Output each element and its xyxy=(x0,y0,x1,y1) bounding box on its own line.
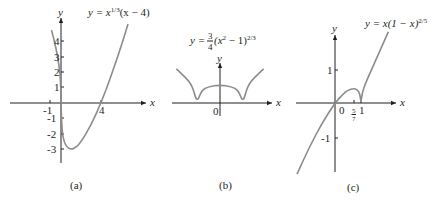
equation-a: y = x1/3(x − 4) xyxy=(87,6,150,19)
panel-b: 0 y x y = 3 4 (x2 − 1)2/3 (b) xyxy=(172,31,281,192)
ytick-label: -2 xyxy=(47,128,56,140)
equation-c: y = x(1 − x)2/5 xyxy=(364,17,428,30)
panel-c: 1 -1 0 5 7 1 y x y = x(1 − x)2/5 (c) xyxy=(296,17,428,194)
ytick-label: 2 xyxy=(54,66,60,78)
ytick-label: 1 xyxy=(327,64,333,76)
xtick-label: 0 xyxy=(213,105,219,117)
x-axis-label: x xyxy=(399,96,405,108)
svg-text:7: 7 xyxy=(352,115,356,123)
caption-a: (a) xyxy=(70,179,83,192)
caption-c: (c) xyxy=(347,181,360,194)
svg-text:(x2 − 1)2/3: (x2 − 1)2/3 xyxy=(214,34,256,47)
figure: 4 3 2 1 -1 -2 -3 -1 4 y x y = x1/3(x − 4… xyxy=(0,0,436,203)
x-axis-label: x xyxy=(149,96,155,108)
ytick-label: 1 xyxy=(54,81,60,93)
xtick-label: 1 xyxy=(359,104,365,116)
ytick-label: -3 xyxy=(47,143,57,155)
y-axis-label: y xyxy=(57,6,63,18)
xtick-label: -1 xyxy=(43,104,52,116)
svg-text:5: 5 xyxy=(352,107,356,115)
x-axis-label: x xyxy=(275,96,281,108)
ytick-label: 3 xyxy=(54,51,60,63)
xtick-label: 0 xyxy=(339,104,345,116)
caption-b: (b) xyxy=(219,179,232,192)
y-axis-label: y xyxy=(331,22,337,34)
svg-text:4: 4 xyxy=(208,42,213,52)
ytick-label: 4 xyxy=(54,35,60,47)
panel-a: 4 3 2 1 -1 -2 -3 -1 4 y x y = x1/3(x − 4… xyxy=(10,6,155,192)
xtick-label: 4 xyxy=(99,104,105,116)
y-axis-label: y xyxy=(216,52,222,64)
ytick-label: -1 xyxy=(321,132,330,144)
equation-b: y = 3 4 (x2 − 1)2/3 xyxy=(189,31,256,52)
svg-text:3: 3 xyxy=(208,31,213,41)
xtick-label-fraction: 5 7 xyxy=(352,107,357,123)
svg-text:y =: y = xyxy=(189,34,205,46)
